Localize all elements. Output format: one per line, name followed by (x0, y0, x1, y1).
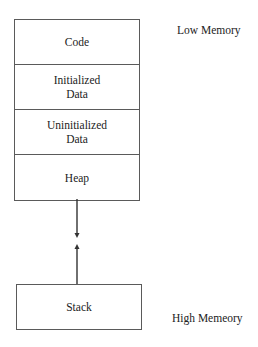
segment-code: Code (15, 20, 139, 65)
segment-code-label: Code (65, 35, 89, 49)
segment-uninitialized-data: Uninitialized Data (15, 110, 139, 155)
heap-arrow-head-icon (75, 233, 80, 238)
memory-layout-block: Code Initialized Data Uninitialized Data… (14, 19, 140, 201)
segment-heap-label: Heap (65, 171, 89, 185)
segment-initialized-data: Initialized Data (15, 65, 139, 110)
high-memory-label: High Memeory (172, 312, 243, 324)
stack-arrow-head-icon (75, 244, 80, 249)
heap-growth-arrow (75, 199, 80, 238)
segment-uninitialized-data-label: Uninitialized Data (47, 118, 107, 146)
segment-stack-label: Stack (66, 301, 92, 313)
segment-stack: Stack (16, 284, 142, 330)
low-memory-label: Low Memory (177, 24, 241, 36)
segment-initialized-data-label: Initialized Data (54, 73, 101, 101)
stack-growth-arrow (75, 244, 80, 284)
segment-heap: Heap (15, 155, 139, 200)
